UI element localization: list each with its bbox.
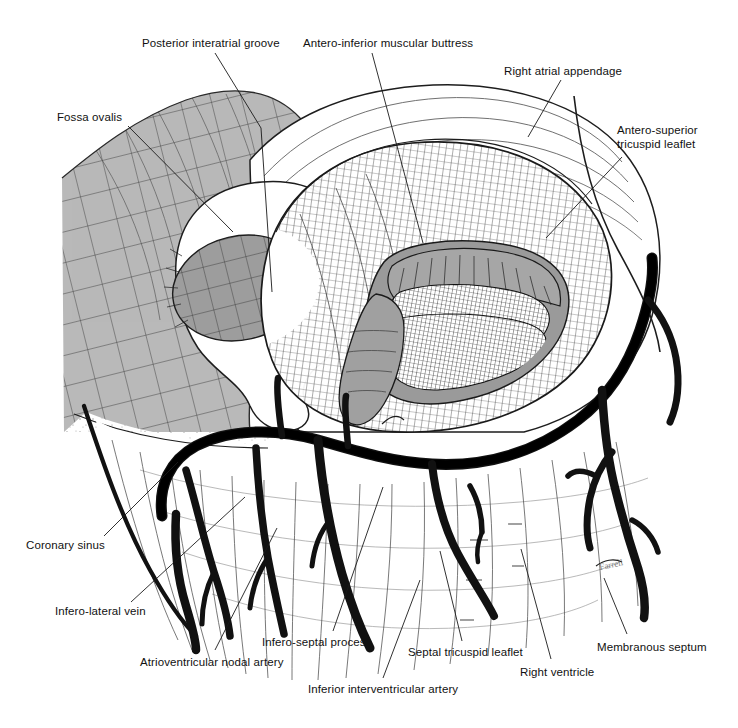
label-right-atrial-appendage: Right atrial appendage — [504, 64, 622, 78]
label-septal-tricuspid-leaflet: Septal tricuspid leaflet — [408, 645, 523, 659]
label-atrioventricular-nodal-artery: Atrioventricular nodal artery — [140, 655, 284, 669]
label-right-ventricle: Right ventricle — [520, 665, 594, 679]
label-infero-lateral-vein: Infero-lateral vein — [55, 604, 146, 618]
anatomical-figure: Farrell Fossa ovalis Posterior interatri… — [0, 0, 738, 728]
label-infero-septal-process: Infero-septal process — [262, 635, 372, 649]
label-antero-superior-tricuspid-leaflet: Antero-superior tricuspid leaflet — [617, 123, 698, 151]
label-antero-inferior-muscular-buttress: Antero-inferior muscular buttress — [303, 36, 473, 50]
label-posterior-interatrial-groove: Posterior interatrial groove — [142, 36, 280, 50]
label-fossa-ovalis: Fossa ovalis — [57, 110, 122, 124]
label-membranous-septum: Membranous septum — [597, 640, 707, 654]
label-coronary-sinus: Coronary sinus — [26, 538, 105, 552]
label-inferior-interventricular-artery: Inferior interventricular artery — [308, 682, 458, 696]
